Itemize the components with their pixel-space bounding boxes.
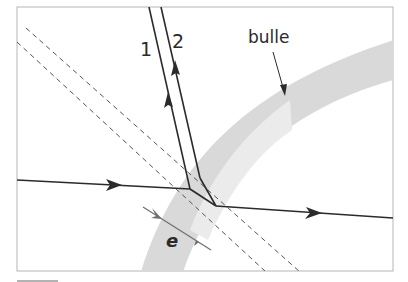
ray-2-label: 2 (172, 30, 184, 52)
thin-film-diagram: 1 2 bulle e (0, 0, 408, 282)
ray-1-label: 1 (140, 38, 152, 60)
thickness-label: e (166, 230, 178, 251)
bubble-label: bulle (248, 27, 289, 47)
